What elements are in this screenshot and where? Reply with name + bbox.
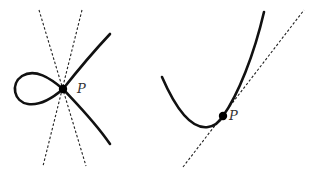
point-p-smooth [219, 112, 227, 120]
smooth-figure: P [162, 10, 304, 167]
node-figure: P [15, 10, 110, 166]
point-p-node [59, 85, 67, 93]
diagram-canvas: P P [0, 0, 315, 175]
point-label-right: P [228, 108, 238, 123]
smooth-curve [162, 12, 264, 127]
tangent-line [183, 10, 304, 167]
point-label-left: P [76, 81, 86, 96]
